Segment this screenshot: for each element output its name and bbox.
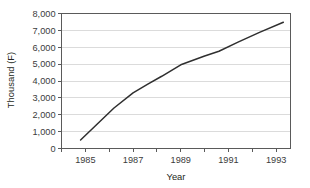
y-tick-label: 7,000 xyxy=(33,26,56,36)
x-tick-label: 1985 xyxy=(75,155,95,165)
x-tick-label: 1987 xyxy=(123,155,143,165)
y-tick-label: 3,000 xyxy=(33,93,56,103)
x-tick-label: 1991 xyxy=(218,155,238,165)
x-tick-label: 1989 xyxy=(171,155,191,165)
y-tick-label: 0 xyxy=(50,144,55,154)
y-tick-label: 1,000 xyxy=(33,127,56,137)
y-axis-title: Thousand (F) xyxy=(5,52,16,108)
x-tick-label: 1993 xyxy=(266,155,286,165)
chart-canvas: 01,0002,0003,0004,0005,0006,0007,0008,00… xyxy=(0,0,310,188)
y-axis-tick-labels: 01,0002,0003,0004,0005,0006,0007,0008,00… xyxy=(33,9,56,154)
y-tick-label: 5,000 xyxy=(33,59,56,69)
y-tick-label: 2,000 xyxy=(33,110,56,120)
line-chart: 01,0002,0003,0004,0005,0006,0007,0008,00… xyxy=(0,0,310,188)
y-tick-label: 8,000 xyxy=(33,9,56,19)
x-axis-title: Year xyxy=(167,171,186,182)
y-tick-label: 6,000 xyxy=(33,43,56,53)
y-tick-label: 4,000 xyxy=(33,76,56,86)
